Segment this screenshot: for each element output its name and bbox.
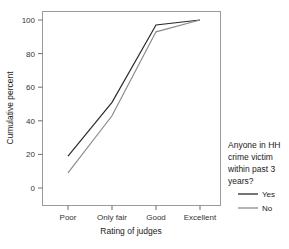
y-tick-label-0: 0: [31, 184, 36, 193]
legend-title-line-2: crime victim: [228, 152, 273, 162]
y-tick-label-100: 100: [22, 16, 36, 25]
x-axis-ticks: [68, 206, 200, 211]
y-tick-label-80: 80: [26, 50, 35, 59]
legend-title-line-1: Anyone in HH: [228, 140, 280, 150]
legend-title-line-3: within past 3: [227, 164, 276, 174]
series-group: [68, 20, 200, 173]
series-line-yes: [68, 20, 200, 156]
y-tick-label-60: 60: [26, 83, 35, 92]
legend: Anyone in HH crime victim within past 3 …: [227, 140, 280, 213]
y-axis-ticks: [38, 20, 43, 188]
legend-label-yes: Yes: [262, 190, 275, 199]
plot-frame: [43, 12, 221, 206]
y-tick-label-40: 40: [26, 117, 35, 126]
x-axis-title: Rating of judges: [100, 226, 161, 236]
x-axis-tick-labels: Poor Only fair Good Excellent: [60, 213, 217, 222]
y-tick-label-20: 20: [26, 150, 35, 159]
chart-container: 100 80 60 40 20 0 Cumulative percent Poo…: [0, 0, 289, 249]
y-axis-title: Cumulative percent: [5, 71, 15, 145]
x-tick-label-only-fair: Only fair: [97, 213, 127, 222]
x-tick-label-poor: Poor: [60, 213, 77, 222]
y-axis-tick-labels: 100 80 60 40 20 0: [22, 16, 36, 193]
legend-title-line-4: years?: [228, 176, 254, 186]
x-tick-label-good: Good: [146, 213, 166, 222]
cumulative-percent-line-chart: 100 80 60 40 20 0 Cumulative percent Poo…: [0, 0, 289, 249]
x-tick-label-excellent: Excellent: [184, 213, 217, 222]
series-line-no: [68, 20, 200, 173]
legend-label-no: No: [262, 204, 273, 213]
